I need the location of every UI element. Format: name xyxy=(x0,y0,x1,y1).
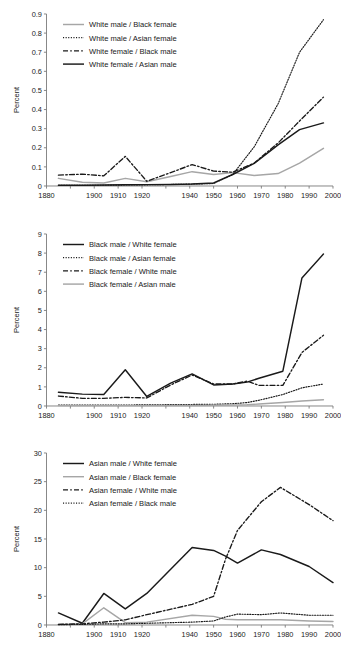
x-tick-label: 1950 xyxy=(205,191,221,200)
series-line xyxy=(58,20,323,185)
y-tick-label: 5 xyxy=(38,592,42,601)
y-tick-label: 20 xyxy=(34,506,42,515)
x-tick-label: 1920 xyxy=(134,191,150,200)
y-tick-label: 0.2 xyxy=(32,143,42,152)
x-tick-label: 1900 xyxy=(86,411,102,420)
x-tick-label: 1920 xyxy=(134,631,150,640)
x-tick-label: 1880 xyxy=(38,411,54,420)
legend-label: Black male / White female xyxy=(89,240,177,249)
y-tick-label: 0.7 xyxy=(32,48,42,57)
x-tick-label: 1990 xyxy=(301,411,317,420)
x-tick-label: 1900 xyxy=(86,191,102,200)
x-tick-label: 2000 xyxy=(325,631,341,640)
y-tick-label: 9 xyxy=(38,229,42,238)
chart-svg-asian: 0510152025301880190019101920194019501960… xyxy=(0,439,341,659)
x-tick-label: 1960 xyxy=(229,631,245,640)
y-tick-label: 0.8 xyxy=(32,29,42,38)
x-tick-label: 1980 xyxy=(277,631,293,640)
y-tick-label: 25 xyxy=(34,478,42,487)
legend-label: Black female / Asian male xyxy=(89,280,176,289)
chart-panel-white: 00.10.20.30.40.50.60.70.80.9188019001910… xyxy=(0,0,341,220)
x-tick-label: 1960 xyxy=(229,191,245,200)
x-tick-label: 1940 xyxy=(182,631,198,640)
figure-container: 00.10.20.30.40.50.60.70.80.9188019001910… xyxy=(0,0,341,659)
legend-label: Black female / White male xyxy=(89,266,177,275)
legend-label: Asian female / White male xyxy=(89,486,177,495)
y-tick-label: 3 xyxy=(38,344,42,353)
y-tick-label: 30 xyxy=(34,449,42,458)
y-tick-label: 0 xyxy=(38,621,42,630)
x-tick-label: 1910 xyxy=(110,411,126,420)
y-tick-label: 7 xyxy=(38,268,42,277)
legend-label: Asian male / Black female xyxy=(89,473,176,482)
legend-label: Black male / Asian female xyxy=(89,253,176,262)
y-tick-label: 0.3 xyxy=(32,124,42,133)
legend-label: White male / Black female xyxy=(89,20,177,29)
legend-label: Asian male / White female xyxy=(89,460,177,469)
y-tick-label: 10 xyxy=(34,564,42,573)
x-tick-label: 1940 xyxy=(182,411,198,420)
x-tick-label: 1960 xyxy=(229,411,245,420)
y-axis-title: Percent xyxy=(12,525,21,552)
x-tick-label: 1900 xyxy=(86,631,102,640)
x-tick-label: 1980 xyxy=(277,411,293,420)
y-axis-title: Percent xyxy=(12,306,21,333)
x-tick-label: 1910 xyxy=(110,631,126,640)
x-tick-label: 1970 xyxy=(253,631,269,640)
legend-label: White male / Asian female xyxy=(89,34,177,43)
x-tick-label: 1910 xyxy=(110,191,126,200)
y-tick-label: 4 xyxy=(38,325,42,334)
series-line xyxy=(58,548,333,624)
x-tick-label: 1880 xyxy=(38,631,54,640)
y-tick-label: 0.5 xyxy=(32,86,42,95)
y-tick-label: 0.4 xyxy=(32,105,42,114)
x-tick-label: 1980 xyxy=(277,191,293,200)
y-tick-label: 0 xyxy=(38,401,42,410)
y-tick-label: 0.1 xyxy=(32,163,42,172)
x-tick-label: 1990 xyxy=(301,191,317,200)
y-tick-label: 0.6 xyxy=(32,67,42,76)
y-tick-label: 6 xyxy=(38,287,42,296)
chart-panel-asian: 0510152025301880190019101920194019501960… xyxy=(0,439,341,659)
x-tick-label: 1990 xyxy=(301,631,317,640)
y-tick-label: 0 xyxy=(38,182,42,191)
series-line xyxy=(58,97,323,181)
chart-svg-white: 00.10.20.30.40.50.60.70.80.9188019001910… xyxy=(0,0,341,220)
y-tick-label: 5 xyxy=(38,306,42,315)
legend-label: Asian female / Black male xyxy=(89,499,176,508)
x-tick-label: 1970 xyxy=(253,411,269,420)
x-tick-label: 1950 xyxy=(205,411,221,420)
x-tick-label: 1950 xyxy=(205,631,221,640)
x-tick-label: 2000 xyxy=(325,191,341,200)
y-tick-label: 2 xyxy=(38,363,42,372)
x-tick-label: 1970 xyxy=(253,191,269,200)
x-tick-label: 1880 xyxy=(38,191,54,200)
legend-label: White female / Black male xyxy=(89,47,177,56)
y-tick-label: 15 xyxy=(34,535,42,544)
chart-panel-black: 0123456789188019001910192019401950196019… xyxy=(0,220,341,440)
y-tick-label: 0.9 xyxy=(32,10,42,19)
x-tick-label: 1940 xyxy=(182,191,198,200)
y-axis-title: Percent xyxy=(12,86,21,113)
y-tick-label: 1 xyxy=(38,382,42,391)
x-tick-label: 2000 xyxy=(325,411,341,420)
x-tick-label: 1920 xyxy=(134,411,150,420)
chart-svg-black: 0123456789188019001910192019401950196019… xyxy=(0,220,341,440)
y-tick-label: 8 xyxy=(38,248,42,257)
legend-label: White female / Asian male xyxy=(89,60,177,69)
